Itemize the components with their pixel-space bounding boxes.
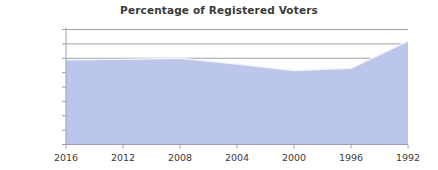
x-axis-tick-label: 2004 [225,152,249,163]
x-axis-tick-label: 2016 [54,152,78,163]
x-axis-tick-label: 2008 [168,152,192,163]
x-axis-tick-label: 1996 [339,152,363,163]
x-axis-tick-label: 2000 [282,152,306,163]
x-axis-tick-label: 2012 [111,152,135,163]
x-axis-labels: 2016201220082004200019961992 [0,0,438,170]
x-axis-tick-label: 1992 [396,152,420,163]
chart-container: Percentage of Registered Voters 0.00%10.… [0,0,438,170]
